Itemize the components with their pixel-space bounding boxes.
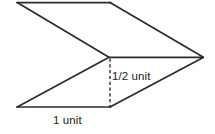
upper-face: [17, 2, 203, 57]
figure-canvas: 1/2 unit 1 unit: [0, 0, 215, 134]
geometry-figure: [0, 0, 215, 134]
width-dimension-label: 1 unit: [53, 114, 82, 127]
height-dimension-label: 1/2 unit: [112, 70, 151, 83]
